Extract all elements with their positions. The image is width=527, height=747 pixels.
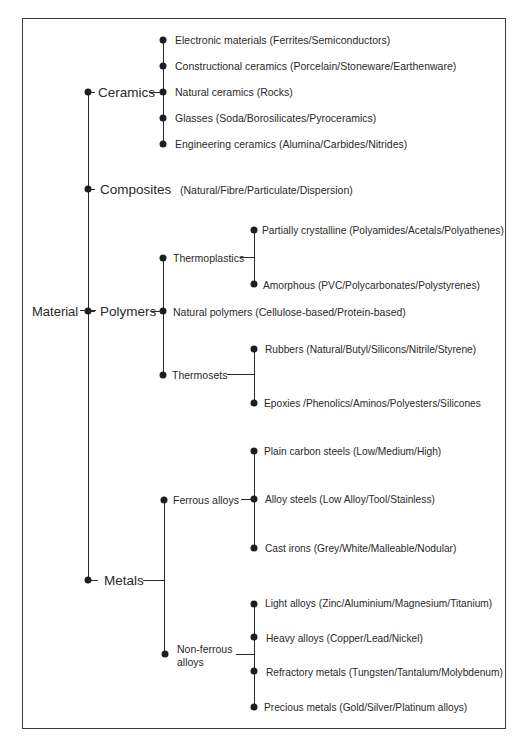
connector — [88, 580, 98, 581]
leaf-label: Epoxies /Phenolics/Aminos/Polyesters/Sil… — [264, 398, 481, 409]
connector — [143, 580, 164, 581]
leaf-label: Cast irons (Grey/White/Malleable/Nodular… — [265, 543, 456, 554]
label-line-2: alloys — [177, 656, 204, 668]
leaf-label: Refractory metals (Tungsten/Tantalum/Mol… — [266, 667, 503, 678]
connector — [240, 257, 254, 258]
category-ceramics: Ceramics — [98, 85, 155, 100]
node-dot — [162, 651, 169, 658]
branch-line — [254, 230, 256, 284]
subcategory-ferrous-alloys: Ferrous alloys — [173, 494, 239, 506]
branch-line — [163, 258, 165, 375]
node-dot — [160, 63, 167, 70]
node-dot — [160, 308, 167, 315]
branch-line — [254, 604, 256, 707]
connector — [88, 92, 95, 93]
node-dot — [251, 704, 258, 711]
connector — [88, 311, 95, 312]
connector — [236, 654, 254, 655]
leaf-label: Glasses (Soda/Borosilicates/Pyroceramics… — [175, 112, 376, 124]
branch-line — [254, 349, 256, 403]
leaf-label: Engineering ceramics (Alumina/Carbides/N… — [175, 138, 407, 150]
leaf-label: Constructional ceramics (Porcelain/Stone… — [175, 60, 456, 72]
connector — [88, 189, 95, 190]
subcategory-thermoplastics: Thermoplastics — [173, 252, 244, 264]
category-metals: Metals — [104, 573, 144, 588]
leaf-label: Electronic materials (Ferrites/Semicondu… — [175, 34, 390, 46]
subcategory-non-ferrous-alloys: Non-ferrousalloys — [177, 643, 237, 669]
leaf-label: Amorphous (PVC/Polycarbonates/Polystyren… — [263, 280, 480, 291]
node-dot — [251, 346, 258, 353]
leaf-label: Plain carbon steels (Low/Medium/High) — [264, 446, 441, 457]
trunk-line — [88, 92, 90, 580]
node-dot — [251, 545, 258, 552]
node-dot — [160, 37, 167, 44]
subcategory-thermosets: Thermosets — [172, 369, 227, 381]
node-dot — [160, 89, 167, 96]
leaf-label: Partially crystalline (Polyamides/Acetal… — [262, 225, 504, 236]
category-composites: Composites — [100, 182, 171, 197]
connector — [227, 374, 254, 375]
node-dot — [251, 496, 258, 503]
node-dot — [161, 497, 168, 504]
diagram-frame — [22, 18, 506, 729]
leaf-label: Alloy steels (Low Alloy/Tool/Stainless) — [265, 494, 435, 505]
node-dot — [251, 668, 258, 675]
node-dot — [160, 115, 167, 122]
composites-detail: (Natural/Fibre/Particulate/Dispersion) — [180, 184, 353, 196]
subcategory-natural-polymers: Natural polymers (Cellulose-based/Protei… — [173, 306, 406, 318]
node-dot — [251, 400, 258, 407]
node-dot — [251, 601, 258, 608]
node-dot — [160, 255, 167, 262]
node-dot — [160, 141, 167, 148]
leaf-label: Light alloys (Zinc/Aluminium/Magnesium/T… — [265, 598, 492, 609]
leaf-label: Natural ceramics (Rocks) — [175, 86, 293, 98]
leaf-label: Precious metals (Gold/Silver/Platinum al… — [264, 702, 467, 713]
node-dot — [251, 448, 258, 455]
root-label: Material — [32, 304, 78, 319]
branch-line — [164, 500, 166, 654]
category-polymers: Polymers — [100, 304, 156, 319]
label-line-1: Non-ferrous — [177, 643, 232, 655]
node-dot — [160, 372, 167, 379]
leaf-label: Heavy alloys (Copper/Lead/Nickel) — [266, 633, 423, 644]
node-dot — [251, 634, 258, 641]
leaf-label: Rubbers (Natural/Butyl/Silicons/Nitrile/… — [265, 344, 476, 355]
node-dot — [251, 227, 258, 234]
node-dot — [251, 281, 258, 288]
